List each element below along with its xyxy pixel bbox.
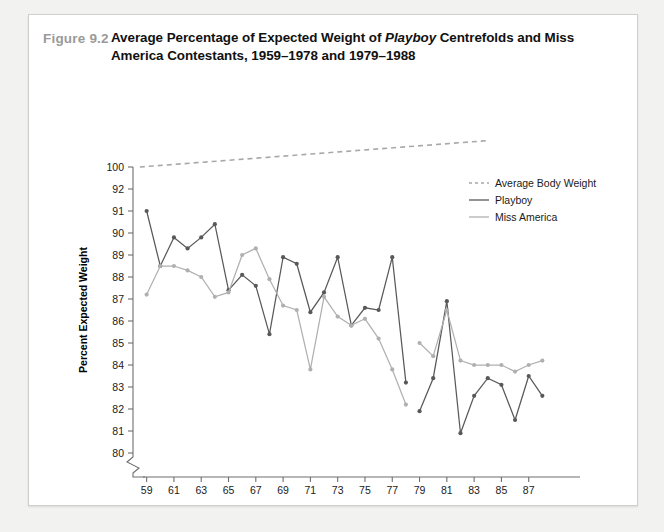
data-point-miss-america (281, 304, 285, 308)
data-point-playboy (336, 255, 340, 259)
data-point-miss-america (172, 264, 176, 268)
x-tick-label: 63 (195, 484, 207, 496)
data-point-playboy (472, 394, 476, 398)
y-tick-label: 87 (112, 293, 124, 305)
data-point-playboy (295, 262, 299, 266)
data-point-miss-america (540, 359, 544, 363)
data-point-playboy (172, 235, 176, 239)
legend-label: Average Body Weight (495, 177, 596, 189)
data-point-playboy (185, 246, 189, 250)
x-tick-label: 67 (250, 484, 262, 496)
y-tick-label: 82 (112, 403, 124, 415)
data-point-playboy (267, 332, 271, 336)
series-line-miss-america (420, 310, 543, 372)
data-point-playboy (213, 222, 217, 226)
x-tick-label: 59 (141, 484, 153, 496)
data-point-playboy (145, 209, 149, 213)
y-tick-label: 81 (112, 425, 124, 437)
data-point-miss-america (254, 246, 258, 250)
series-line-playboy (147, 211, 406, 383)
data-point-miss-america (363, 317, 367, 321)
y-tick-label: 85 (112, 337, 124, 349)
data-point-miss-america (336, 315, 340, 319)
data-point-miss-america (404, 403, 408, 407)
x-tick-label: 77 (386, 484, 398, 496)
data-point-miss-america (213, 295, 217, 299)
data-point-miss-america (486, 363, 490, 367)
data-point-miss-america (417, 341, 421, 345)
x-tick-label: 65 (223, 484, 235, 496)
data-point-playboy (240, 273, 244, 277)
y-tick-label: 100 (106, 161, 124, 173)
data-point-playboy (308, 310, 312, 314)
data-point-miss-america (185, 268, 189, 272)
data-point-miss-america (472, 363, 476, 367)
data-point-playboy (417, 409, 421, 413)
data-point-miss-america (445, 308, 449, 312)
data-point-miss-america (295, 308, 299, 312)
chart-series (145, 209, 545, 435)
data-point-playboy (445, 299, 449, 303)
average-body-weight-line (140, 141, 488, 167)
data-point-miss-america (431, 354, 435, 358)
data-point-playboy (377, 308, 381, 312)
data-point-miss-america (527, 363, 531, 367)
y-tick-label: 91 (112, 205, 124, 217)
y-tick-label: 86 (112, 315, 124, 327)
y-tick-label: 84 (112, 359, 124, 371)
data-point-playboy (527, 374, 531, 378)
data-point-playboy (322, 290, 326, 294)
data-point-miss-america (145, 293, 149, 297)
data-point-miss-america (458, 359, 462, 363)
line-chart: 1009291908988878685848382818059616365676… (29, 15, 637, 505)
y-tick-label: 90 (112, 227, 124, 239)
x-tick-label: 85 (496, 484, 508, 496)
data-point-miss-america (390, 367, 394, 371)
data-point-miss-america (199, 275, 203, 279)
x-tick-label: 61 (168, 484, 180, 496)
x-tick-label: 87 (523, 484, 535, 496)
data-point-miss-america (226, 290, 230, 294)
data-point-playboy (458, 431, 462, 435)
data-point-playboy (254, 284, 258, 288)
data-point-playboy (486, 376, 490, 380)
x-tick-label: 69 (277, 484, 289, 496)
series-line-miss-america (147, 248, 406, 404)
y-axis-title: Percent Expected Weight (77, 247, 89, 373)
data-point-playboy (499, 383, 503, 387)
data-point-playboy (390, 255, 394, 259)
data-point-miss-america (377, 337, 381, 341)
x-tick-label: 73 (332, 484, 344, 496)
data-point-miss-america (513, 370, 517, 374)
data-point-playboy (540, 394, 544, 398)
y-tick-label: 89 (112, 249, 124, 261)
y-tick-label: 80 (112, 447, 124, 459)
x-tick-label: 75 (359, 484, 371, 496)
data-point-miss-america (499, 363, 503, 367)
x-tick-label: 83 (468, 484, 480, 496)
data-point-playboy (281, 255, 285, 259)
y-tick-label: 92 (112, 183, 124, 195)
data-point-playboy (363, 306, 367, 310)
x-tick-label: 71 (305, 484, 317, 496)
x-tick-label: 81 (441, 484, 453, 496)
data-point-miss-america (308, 367, 312, 371)
data-point-miss-america (158, 264, 162, 268)
y-tick-label: 83 (112, 381, 124, 393)
data-point-playboy (199, 235, 203, 239)
chart-legend: Average Body WeightPlayboyMiss America (469, 177, 596, 223)
chart-svg: 1009291908988878685848382818059616365676… (29, 15, 637, 505)
series-average-body-weight (140, 141, 488, 167)
data-point-miss-america (322, 295, 326, 299)
legend-label: Playboy (495, 194, 533, 206)
data-point-playboy (431, 376, 435, 380)
data-point-miss-america (240, 253, 244, 257)
y-tick-label: 88 (112, 271, 124, 283)
data-point-playboy (513, 418, 517, 422)
data-point-miss-america (267, 277, 271, 281)
x-tick-label: 79 (414, 484, 426, 496)
data-point-miss-america (349, 323, 353, 327)
data-point-playboy (404, 381, 408, 385)
figure-card: Figure 9.2 Average Percentage of Expecte… (28, 14, 638, 506)
legend-label: Miss America (495, 211, 558, 223)
